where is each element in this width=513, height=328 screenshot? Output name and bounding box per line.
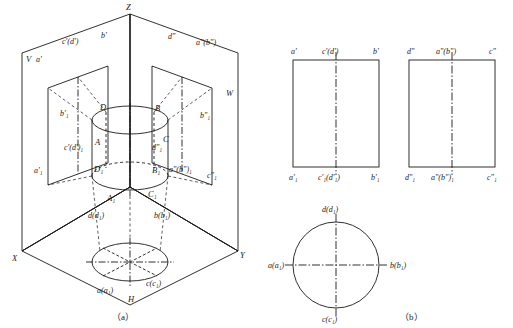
label-A1: A₁: [106, 193, 115, 203]
label-b1v: b'₁: [60, 109, 69, 118]
label-d1w: d"₁: [152, 143, 162, 152]
fv-label-bottom-mid: c'₁(d'₁): [318, 173, 340, 182]
plane-h-outline: [22, 187, 238, 305]
label-D1: D₁: [93, 164, 103, 174]
plane-h-label: H: [127, 294, 135, 304]
axis-x-label: X: [11, 253, 18, 263]
label-a-a1: a(a₁): [97, 286, 113, 295]
sv-label-bottom-left: d"₁: [405, 173, 415, 182]
fv-label-top-right: b': [373, 47, 379, 56]
label-C1: C₁: [148, 189, 157, 199]
caption-a: （a）: [112, 312, 134, 322]
label-B1: B₁: [152, 165, 160, 175]
label-c1w: c"₁: [207, 171, 217, 180]
axis-z-label: Z: [126, 2, 131, 12]
part-b-group: [285, 52, 495, 316]
plane-w-label: W: [226, 88, 234, 98]
part-a-group: [22, 14, 238, 305]
tv-label-top: d(d₁): [322, 205, 338, 214]
fv-label-top-left: a': [291, 47, 297, 56]
label-c-c1: c(c₁): [146, 279, 162, 288]
label-a-bprime2: a"(b"): [196, 38, 216, 47]
label-c-dprime: c'(d'): [62, 37, 79, 46]
label-b-b1: b(b₁): [154, 211, 170, 220]
plane-v-label: V: [26, 54, 33, 64]
label-b1w: b"₁: [200, 111, 210, 120]
sv-label-bottom-right: c"₁: [487, 173, 497, 182]
fv-label-bottom-right: b'₁: [371, 173, 380, 182]
axis-y-label: Y: [240, 250, 246, 260]
sv-label-top-mid: a"(b"): [436, 47, 456, 56]
fv-label-bottom-left: a'₁: [289, 173, 298, 182]
sv-label-top-right: c": [489, 47, 497, 56]
label-a-b1w: a"(b")₁: [169, 165, 192, 174]
label-A: A: [94, 137, 101, 147]
label-bprime: b': [101, 31, 107, 40]
label-dprime2: d": [168, 32, 176, 41]
tv-label-left: a(a₁): [268, 261, 284, 270]
label-B: B: [155, 103, 160, 113]
sv-label-top-left: d": [407, 47, 415, 56]
part-a-labels: Z X Y V W H c'(d') b' a' d" a"(b") c'(d'…: [11, 2, 246, 304]
sv-label-bottom-mid: a"(b")₁: [431, 173, 454, 182]
label-a1v: a'₁: [34, 166, 43, 175]
tv-label-right: b(b₁): [390, 261, 406, 270]
fv-label-top-mid: c'(d'): [322, 47, 339, 56]
label-c-d1: c'(d')₁: [64, 143, 83, 152]
label-C: C: [163, 134, 169, 144]
label-D: D: [99, 102, 107, 112]
engineering-drawing: Z X Y V W H c'(d') b' a' d" a"(b") c'(d'…: [0, 0, 513, 328]
label-aprime: a': [36, 55, 42, 64]
tv-label-bottom: c(c₁): [322, 315, 338, 324]
figure-root: Z X Y V W H c'(d') b' a' d" a"(b") c'(d'…: [0, 0, 513, 328]
label-d-d1: d(d₁): [88, 211, 104, 220]
caption-b: （b）: [400, 312, 423, 322]
part-b-labels: a' c'(d') b' a'₁ c'₁(d'₁) b'₁ d" a"(b") …: [268, 47, 497, 324]
